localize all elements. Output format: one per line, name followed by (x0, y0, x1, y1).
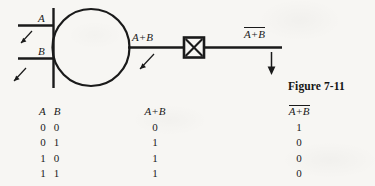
column-header-a: A (0, 104, 50, 120)
output-signal-label: A+B (244, 27, 265, 40)
table-row: 0 0 0 1 (0, 120, 375, 136)
cell-a: 1 (0, 151, 50, 167)
cell-nor: 0 (223, 135, 375, 151)
cell-b: 0 (50, 151, 87, 167)
truth-table: A B A+B A+B 0 0 0 1 0 1 1 0 1 0 1 (0, 104, 375, 182)
table-row: 0 1 1 0 (0, 135, 375, 151)
cell-a: 1 (0, 166, 50, 182)
column-header-or: A+B (87, 104, 224, 120)
input-a-label: A (38, 13, 45, 24)
cell-or: 1 (87, 135, 224, 151)
cell-nor: 0 (223, 166, 375, 182)
output-signal-label-text: A+B (244, 27, 265, 40)
input-b-arrow-icon (14, 68, 26, 81)
figure-caption: Figure 7-11 (288, 80, 345, 92)
cell-nor: 1 (223, 120, 375, 136)
cell-or: 0 (87, 120, 224, 136)
cell-b: 1 (50, 135, 87, 151)
cell-nor: 0 (223, 151, 375, 167)
cell-a: 0 (0, 120, 50, 136)
figure-page: A B A+B A+B Figure 7-11 A B A+B A+B 0 0 … (0, 0, 375, 186)
input-b-label: B (38, 46, 45, 57)
cell-a: 0 (0, 135, 50, 151)
cell-or: 1 (87, 151, 224, 167)
output-arrow-icon (268, 52, 276, 75)
column-header-b: B (50, 104, 87, 120)
inverter-boxed-x-icon (184, 38, 204, 58)
cell-b: 1 (50, 166, 87, 182)
or-gate-circle-icon (53, 9, 130, 86)
truth-table-header-row: A B A+B A+B (0, 104, 375, 120)
cell-b: 0 (50, 120, 87, 136)
intermediate-signal-label: A+B (132, 32, 153, 43)
input-a-arrow-icon (21, 31, 32, 43)
table-row: 1 1 1 0 (0, 166, 375, 182)
table-row: 1 0 1 0 (0, 151, 375, 167)
cell-or: 1 (87, 166, 224, 182)
intermediate-arrow-icon (140, 54, 154, 69)
column-header-nor: A+B (223, 104, 375, 120)
column-header-nor-text: A+B (289, 105, 310, 118)
